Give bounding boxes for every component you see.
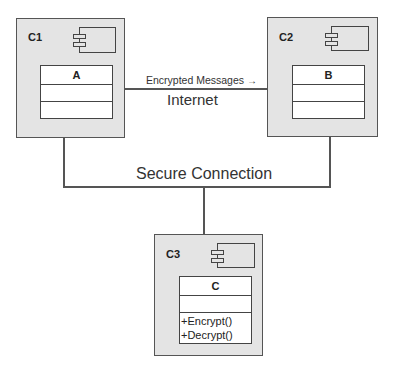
class-b-attributes: [293, 85, 364, 102]
class-b-operations: [293, 102, 364, 118]
component-c1[interactable]: C1 A: [16, 18, 125, 138]
encrypted-messages-text: Encrypted Messages: [146, 74, 244, 86]
c3-secure-rise-line: [203, 186, 205, 234]
class-b-name: B: [293, 66, 364, 85]
class-b[interactable]: B: [292, 65, 365, 119]
class-c-name: C: [180, 277, 251, 296]
secure-connection-label: Secure Connection: [136, 165, 272, 183]
c2-secure-drop-line: [329, 136, 331, 187]
internet-connection-line: [123, 88, 268, 90]
encrypted-messages-label: Encrypted Messages →: [146, 74, 257, 86]
class-a-name: A: [41, 66, 112, 85]
component-c2[interactable]: C2 B: [267, 17, 378, 137]
component-icon: [211, 243, 255, 268]
arrow-right-icon: →: [247, 75, 257, 86]
c1-secure-drop-line: [63, 137, 65, 187]
component-c1-label: C1: [28, 31, 42, 43]
class-c[interactable]: C +Encrypt() +Decrypt(): [179, 276, 252, 344]
component-c3[interactable]: C3 C +Encrypt() +Decrypt(): [154, 234, 263, 356]
class-a-operations: [41, 102, 112, 118]
component-c2-label: C2: [279, 31, 293, 43]
class-a[interactable]: A: [40, 65, 113, 119]
internet-label: Internet: [167, 91, 218, 108]
operation-encrypt: +Encrypt(): [180, 314, 251, 328]
secure-connection-line: [63, 186, 331, 188]
operation-decrypt: +Decrypt(): [180, 328, 251, 342]
class-a-attributes: [41, 85, 112, 102]
component-icon: [325, 26, 369, 51]
class-c-operations: +Encrypt() +Decrypt(): [180, 313, 251, 342]
component-c3-label: C3: [166, 248, 180, 260]
component-icon: [73, 27, 116, 53]
class-c-attributes: [180, 296, 251, 313]
